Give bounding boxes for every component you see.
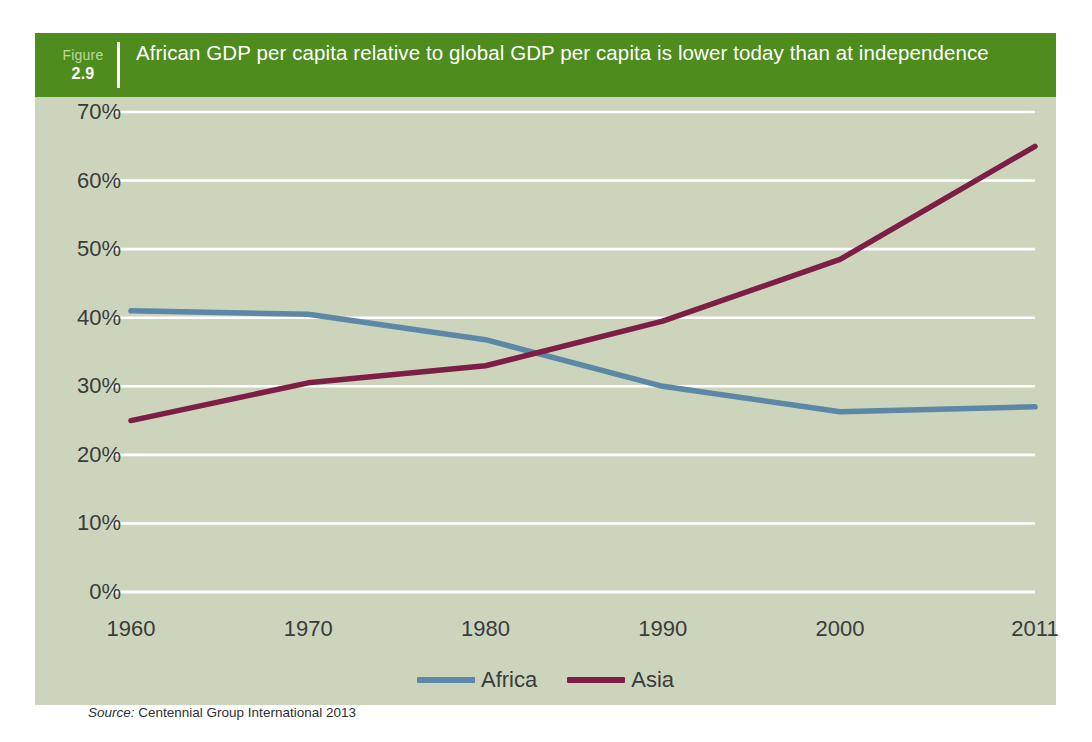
source-label: Source: <box>88 705 135 720</box>
x-tick-2000: 2000 <box>816 618 865 640</box>
legend-swatch-africa <box>417 677 475 683</box>
x-tick-1960: 1960 <box>107 618 156 640</box>
x-tick-1970: 1970 <box>284 618 333 640</box>
x-tick-2011: 2011 <box>1011 618 1058 640</box>
x-tick-1990: 1990 <box>638 618 687 640</box>
legend-swatch-asia <box>567 677 625 683</box>
figure-title: African GDP per capita relative to globa… <box>120 33 1056 97</box>
figure-number-block: Figure 2.9 <box>35 33 117 97</box>
legend-label-asia: Asia <box>631 669 674 691</box>
legend-item-africa[interactable]: Africa <box>417 669 537 691</box>
x-tick-1980: 1980 <box>461 618 510 640</box>
legend-label-africa: Africa <box>481 669 537 691</box>
x-axis-tick-labels: 196019701980199020002011 <box>35 97 1056 705</box>
figure-panel: Figure 2.9 African GDP per capita relati… <box>35 33 1056 705</box>
figure-label-word: Figure <box>63 47 104 64</box>
figure-header-bar: Figure 2.9 African GDP per capita relati… <box>35 33 1056 97</box>
source-text: Centennial Group International 2013 <box>138 705 356 720</box>
figure-number: 2.9 <box>72 64 95 83</box>
source-note: Source: Centennial Group International 2… <box>88 705 356 720</box>
chart-legend: AfricaAsia <box>35 669 1056 691</box>
legend-item-asia[interactable]: Asia <box>567 669 674 691</box>
chart-plot-area: 0%10%20%30%40%50%60%70% 1960197019801990… <box>35 97 1056 705</box>
